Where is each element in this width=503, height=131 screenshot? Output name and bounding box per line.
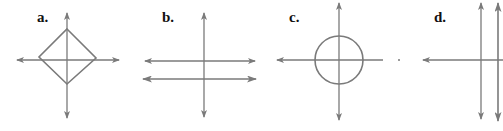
figure-graphics [0,0,503,131]
panel-c-graph [277,3,383,120]
panel-a-graph [17,13,119,118]
panel-b-graph [143,13,256,117]
panel-d-graph [423,3,503,121]
